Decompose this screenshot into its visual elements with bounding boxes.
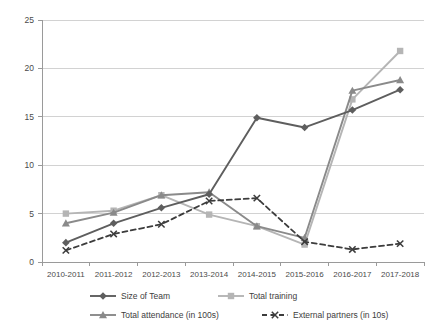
y-tick-label: 0 [29, 257, 34, 267]
datapoint-square-marker [206, 211, 212, 217]
legend-item-external-partners-in-10s[interactable]: External partners (in 10s) [262, 310, 389, 320]
datapoint-square-marker [397, 48, 403, 54]
y-tick-label: 5 [29, 209, 34, 219]
legend-item-total-training[interactable]: Total training [218, 291, 297, 301]
legend-label: External partners (in 10s) [293, 310, 389, 320]
datapoint-diamond-marker [62, 239, 70, 247]
datapoint-diamond-marker [110, 219, 118, 227]
x-tick-label: 2011-2012 [95, 270, 133, 279]
x-tick-label: 2013-2014 [190, 270, 229, 279]
series-size-of-team [62, 86, 404, 247]
y-tick-label: 25 [25, 15, 35, 25]
legend-label: Total training [249, 291, 297, 301]
legend-item-size-of-team[interactable]: Size of Team [90, 291, 170, 301]
datapoint-triangle-marker [396, 76, 404, 83]
y-tick-label: 10 [25, 160, 35, 170]
series-total-training [63, 48, 404, 248]
legend-diamond-marker [99, 292, 107, 300]
x-tick-label: 2010-2011 [47, 270, 85, 279]
x-tick-label: 2016-2017 [333, 270, 372, 279]
datapoint-diamond-marker [396, 86, 404, 94]
legend-square-marker [228, 293, 234, 299]
y-tick-label: 20 [25, 63, 35, 73]
datapoint-diamond-marker [301, 124, 309, 132]
legend-label: Total attendance (in 100s) [121, 310, 219, 320]
x-tick-label: 2017-2018 [381, 270, 420, 279]
line-chart: 05101520252010-20112011-20122012-2013201… [0, 0, 436, 333]
x-tick-label: 2014-2015 [238, 270, 277, 279]
legend-item-total-attendance-in-100s[interactable]: Total attendance (in 100s) [90, 310, 219, 320]
x-tick-label: 2015-2016 [285, 270, 324, 279]
datapoint-diamond-marker [158, 204, 166, 212]
x-tick-label: 2012-2013 [142, 270, 181, 279]
datapoint-square-marker [63, 210, 69, 216]
chart-canvas: 05101520252010-20112011-20122012-2013201… [0, 0, 436, 333]
legend-label: Size of Team [121, 291, 170, 301]
y-tick-label: 15 [25, 112, 35, 122]
